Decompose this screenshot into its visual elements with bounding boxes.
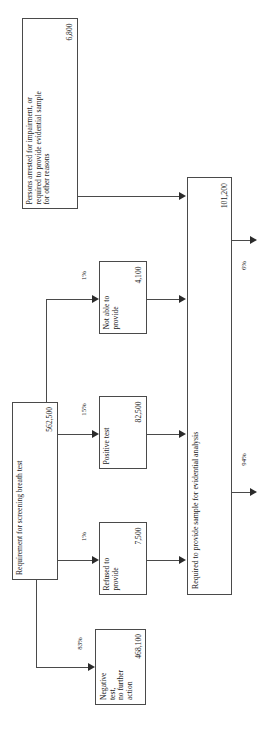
node-screening-requirement-title: Requirement for screening breath test [16,461,25,575]
connector-screening-to-positive [58,434,92,435]
node-not-able-to-provide: Not able to provide 4,100 [99,261,147,334]
node-positive-test-value: 82,500 [134,401,143,422]
connector-positive-to-evidential [147,434,179,435]
connector-screening-to-not-able [46,299,92,300]
node-negative-test-value: 468,100 [133,634,142,659]
node-evidential-analysis-value: 101,200 [219,183,228,208]
connector-refused-to-evidential [147,560,179,561]
edge-label-out-top-pct: 6% [240,255,247,277]
edge-label-positive-pct: 15% [80,397,87,423]
arrowhead-screening-to-negative [88,663,95,671]
edge-label-not-able-pct: 1% [80,265,87,287]
arrowhead-screening-to-positive [92,430,99,438]
edge-label-negative-pct: 83% [76,631,83,657]
flowchart-canvas: Persons arrested for impairment, or requ… [0,0,263,747]
node-positive-test: Positive test 82,500 [99,396,147,469]
node-evidential-analysis: Required to provide sample for evidentia… [187,177,232,595]
connector-screening-stem-up [46,299,47,403]
node-negative-test-title: Negative test, no further action [99,659,134,700]
arrowhead-screening-to-refused [92,556,99,564]
connector-screening-to-refused [58,560,92,561]
node-not-able-to-provide-value: 4,100 [134,266,143,283]
arrowhead-screening-to-not-able [92,295,99,303]
node-refused-to-provide: Refused to provide 7,500 [99,522,147,595]
arrowhead-arrested-to-evidential [179,192,186,200]
node-persons-arrested-title: Persons arrested for impairment, or requ… [26,91,52,204]
node-negative-test: Negative test, no further action 468,100 [95,629,146,705]
connector-screening-stem-down [36,580,37,667]
connector-arrested-to-evidential [78,196,179,197]
arrowhead-positive-to-evidential [179,430,186,438]
node-positive-test-title: Positive test [103,427,112,464]
node-persons-arrested-value: 6,800 [65,23,74,40]
arrowhead-evidential-out-bottom [250,488,257,496]
node-refused-to-provide-title: Refused to provide [103,557,120,590]
arrowhead-not-able-to-evidential [179,295,186,303]
connector-not-able-to-evidential [147,299,179,300]
node-evidential-analysis-title: Required to provide sample for evidentia… [191,432,200,589]
connector-screening-to-negative [36,667,88,668]
node-refused-to-provide-value: 7,500 [134,527,143,544]
node-screening-requirement-value: 562,500 [45,407,54,432]
node-screening-requirement: Requirement for screening breath test 56… [12,402,58,580]
arrowhead-refused-to-evidential [179,556,186,564]
arrowhead-evidential-out-top [250,236,257,244]
node-not-able-to-provide-title: Not able to provide [103,295,120,329]
node-persons-arrested: Persons arrested for impairment, or requ… [22,18,78,209]
edge-label-out-bottom-pct: 94% [240,447,247,473]
edge-label-refused-pct: 1% [80,526,87,548]
